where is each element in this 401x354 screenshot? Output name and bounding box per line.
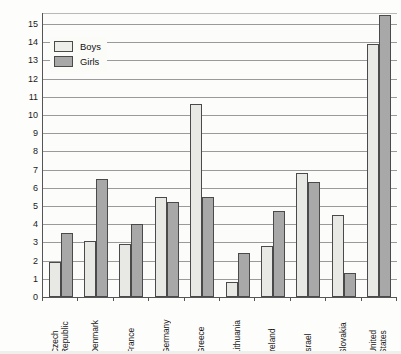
y-axis-tick-label: 12 bbox=[16, 74, 38, 84]
x-axis-category-word: Denmark bbox=[90, 302, 100, 354]
bar-boys[interactable] bbox=[332, 215, 344, 297]
x-axis-category-germany: Germany bbox=[149, 302, 183, 354]
y-axis-tick-label: 11 bbox=[16, 92, 38, 102]
bar-girls[interactable] bbox=[238, 253, 250, 297]
x-axis-category-word: Ireland bbox=[267, 302, 277, 354]
x-axis-tick bbox=[396, 297, 397, 301]
y-axis-tick-label: 10 bbox=[16, 110, 38, 120]
x-axis-category-word: Slovakia bbox=[338, 302, 348, 354]
chart-legend: BoysGirls bbox=[50, 37, 107, 72]
x-axis-category-czech-republic: CzechRepublic bbox=[43, 302, 77, 354]
x-axis-category-france: France bbox=[114, 302, 148, 354]
x-axis-tick bbox=[361, 297, 362, 301]
bar-girls[interactable] bbox=[61, 233, 73, 297]
y-axis-tick-label: 15 bbox=[16, 19, 38, 29]
bar-boys[interactable] bbox=[261, 246, 273, 297]
bar-boys[interactable] bbox=[367, 44, 379, 297]
x-axis-tick bbox=[290, 297, 291, 301]
y-axis-tick-label: 6 bbox=[16, 183, 38, 193]
bar-group bbox=[255, 13, 290, 297]
x-axis-category-ireland: Ireland bbox=[255, 302, 289, 354]
bar-boys[interactable] bbox=[119, 244, 131, 297]
x-axis-category-word: Germany bbox=[161, 302, 171, 354]
x-axis-category-labels: CzechRepublicDenmarkFranceGermanyGreeceL… bbox=[42, 302, 397, 354]
legend-item-boys[interactable]: Boys bbox=[54, 39, 101, 54]
x-axis-category-word: Republic bbox=[60, 302, 70, 354]
y-axis-tick-label: 2 bbox=[16, 256, 38, 266]
bar-group bbox=[362, 13, 397, 297]
y-axis-tick-label: 0 bbox=[16, 292, 38, 302]
x-axis-category-greece: Greece bbox=[184, 302, 218, 354]
legend-swatch-girls bbox=[54, 56, 73, 67]
bar-boys[interactable] bbox=[84, 241, 96, 297]
bar-boys[interactable] bbox=[226, 282, 238, 297]
x-axis-tick bbox=[254, 297, 255, 301]
x-axis-tick bbox=[184, 297, 185, 301]
bar-boys[interactable] bbox=[49, 262, 61, 297]
y-axis-tick-labels: 0123456789101112131415 bbox=[16, 0, 38, 354]
bar-group bbox=[185, 13, 220, 297]
bar-girls[interactable] bbox=[202, 197, 214, 297]
bar-girls[interactable] bbox=[344, 273, 356, 297]
bar-girls[interactable] bbox=[379, 15, 391, 297]
x-axis-category-israel: Israel bbox=[291, 302, 325, 354]
x-axis-category-word: Lithuania bbox=[232, 302, 242, 354]
x-axis-tick bbox=[77, 297, 78, 301]
legend-label: Girls bbox=[80, 56, 99, 67]
bar-girls[interactable] bbox=[131, 224, 143, 297]
bar-chart-figure: Percentage of 15-year-olds who are obese… bbox=[0, 0, 401, 354]
bar-girls[interactable] bbox=[273, 211, 285, 297]
x-axis-category-word: Czech bbox=[50, 302, 60, 354]
legend-swatch-boys bbox=[54, 41, 73, 52]
bar-boys[interactable] bbox=[155, 197, 167, 297]
x-axis-category-word: States bbox=[378, 302, 388, 354]
x-axis-category-united-states: UnitedStates bbox=[361, 302, 395, 354]
x-axis-category-word: Greece bbox=[196, 302, 206, 354]
x-axis-category-slovakia: Slovakia bbox=[326, 302, 360, 354]
x-axis-category-denmark: Denmark bbox=[78, 302, 112, 354]
bar-group bbox=[291, 13, 326, 297]
y-axis-tick-label: 14 bbox=[16, 37, 38, 47]
y-axis-tick-label: 8 bbox=[16, 146, 38, 156]
bar-girls[interactable] bbox=[308, 182, 320, 297]
bar-girls[interactable] bbox=[167, 202, 179, 297]
x-axis-category-word: Israel bbox=[303, 302, 313, 354]
y-axis-tick-label: 13 bbox=[16, 55, 38, 65]
legend-label: Boys bbox=[80, 41, 101, 52]
bar-group bbox=[114, 13, 149, 297]
bar-group bbox=[149, 13, 184, 297]
bar-group bbox=[220, 13, 255, 297]
y-axis-tick-label: 7 bbox=[16, 165, 38, 175]
x-axis-category-word: United bbox=[368, 302, 378, 354]
x-axis-tick bbox=[42, 297, 43, 301]
y-axis-tick-label: 5 bbox=[16, 201, 38, 211]
x-axis-tick bbox=[148, 297, 149, 301]
y-axis-tick-label: 3 bbox=[16, 237, 38, 247]
y-axis-tick-label: 9 bbox=[16, 128, 38, 138]
y-axis-tick-label: 1 bbox=[16, 274, 38, 284]
x-axis-category-word: France bbox=[126, 302, 136, 354]
bar-boys[interactable] bbox=[296, 173, 308, 297]
x-axis-tick bbox=[325, 297, 326, 301]
y-axis-tick-label: 4 bbox=[16, 219, 38, 229]
x-axis-tick bbox=[113, 297, 114, 301]
bar-group bbox=[326, 13, 361, 297]
legend-item-girls[interactable]: Girls bbox=[54, 54, 101, 69]
x-axis-category-lithuania: Lithuania bbox=[220, 302, 254, 354]
bar-boys[interactable] bbox=[190, 104, 202, 297]
bar-girls[interactable] bbox=[96, 179, 108, 297]
x-axis-tick bbox=[219, 297, 220, 301]
